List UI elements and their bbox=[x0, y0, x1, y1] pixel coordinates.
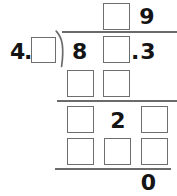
dividend-digit-8: 8 bbox=[72, 41, 87, 63]
quotient-blank-box-1[interactable] bbox=[103, 3, 130, 30]
dividend-digit-3: 3 bbox=[140, 41, 156, 63]
row1-blank-box-1[interactable] bbox=[67, 70, 94, 97]
subtraction-rule-1 bbox=[57, 100, 177, 102]
row2-blank-box-1[interactable] bbox=[67, 106, 94, 133]
divisor-blank-box[interactable] bbox=[31, 37, 56, 63]
dividend-blank-box[interactable] bbox=[103, 36, 130, 63]
division-vinculum bbox=[62, 31, 177, 33]
dividend-decimal-point: . bbox=[131, 41, 139, 63]
quotient-digit-9: 9 bbox=[138, 6, 156, 28]
row2-blank-box-2[interactable] bbox=[141, 106, 168, 133]
divisor-digit-4: 4 bbox=[10, 41, 24, 63]
division-bracket-icon bbox=[55, 30, 67, 68]
row3-blank-box-2[interactable] bbox=[104, 138, 131, 165]
row2-digit-2: 2 bbox=[110, 110, 126, 132]
remainder-digit-0: 0 bbox=[140, 172, 157, 194]
row3-blank-box-3[interactable] bbox=[141, 138, 168, 165]
long-division-worksheet: 9 4 . 8 . 3 2 0 bbox=[0, 0, 177, 196]
row3-blank-box-1[interactable] bbox=[67, 138, 94, 165]
row1-blank-box-2[interactable] bbox=[103, 70, 130, 97]
